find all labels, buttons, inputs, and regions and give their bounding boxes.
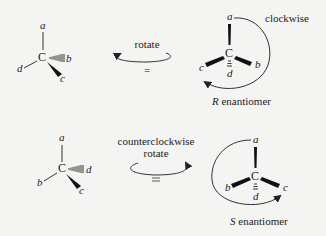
top-right-molecule: a C c b d clockwise R enantiomer — [199, 10, 309, 107]
wedge-bond-b — [234, 56, 252, 66]
bond-b — [44, 173, 57, 181]
substituent-c: c — [283, 181, 288, 193]
substituent-d: d — [86, 163, 92, 175]
s-enantiomer-label: S enantiomer — [230, 215, 288, 227]
substituent-b: b — [37, 176, 43, 188]
equals-symbol — [152, 178, 160, 181]
wedge-bond-c — [205, 56, 225, 67]
bond-d — [24, 61, 37, 68]
substituent-a: a — [253, 133, 259, 145]
substituent-c: c — [199, 61, 204, 73]
substituent-b: b — [66, 52, 72, 64]
substituent-c: c — [79, 184, 84, 196]
r-enantiomer-label: R enantiomer — [211, 95, 271, 107]
hashed-bond-d — [69, 165, 83, 173]
counterclockwise-label: counterclockwise — [118, 135, 195, 147]
clockwise-arrow-icon — [205, 18, 270, 89]
rotate-label: rotate — [134, 38, 159, 50]
substituent-d: d — [227, 67, 233, 79]
substituent-a: a — [59, 131, 65, 143]
substituent-d: d — [17, 62, 23, 74]
substituent-b: b — [225, 181, 231, 193]
bottom-right-molecule: a C b c d S enantiomer — [212, 133, 288, 227]
chirality-diagram: a C d b c rotate = a C c b d clockwise — [0, 0, 326, 236]
rotate-arrow-icon — [131, 163, 187, 175]
wedge-bond-b — [231, 177, 251, 188]
top-rotate-arrow: rotate = — [117, 38, 171, 76]
carbon-center: C — [251, 169, 259, 183]
bottom-rotate-arrow: counterclockwise rotate — [118, 135, 195, 181]
wedge-bond-c — [260, 177, 280, 188]
hashed-bond-b — [50, 54, 64, 62]
top-left-molecule: a C d b c — [17, 19, 72, 84]
rotate-arrow-icon — [117, 53, 171, 62]
substituent-c: c — [60, 72, 65, 84]
wedge-bond-a — [228, 24, 231, 45]
carbon-center: C — [38, 50, 46, 64]
substituent-a: a — [227, 10, 233, 22]
substituent-b: b — [255, 58, 261, 70]
substituent-d: d — [253, 190, 259, 202]
counterclockwise-arrow-icon — [212, 140, 280, 205]
hashed-bond-d — [227, 61, 232, 66]
equals-symbol: = — [144, 64, 150, 76]
rotate-label: rotate — [143, 147, 168, 159]
hashed-bond-d — [253, 184, 258, 189]
clockwise-label: clockwise — [265, 12, 309, 24]
carbon-center: C — [58, 161, 66, 175]
carbon-center: C — [225, 46, 233, 60]
wedge-bond-a — [254, 147, 257, 168]
bottom-left-molecule: a C b d c — [37, 131, 92, 196]
substituent-a: a — [40, 19, 46, 31]
